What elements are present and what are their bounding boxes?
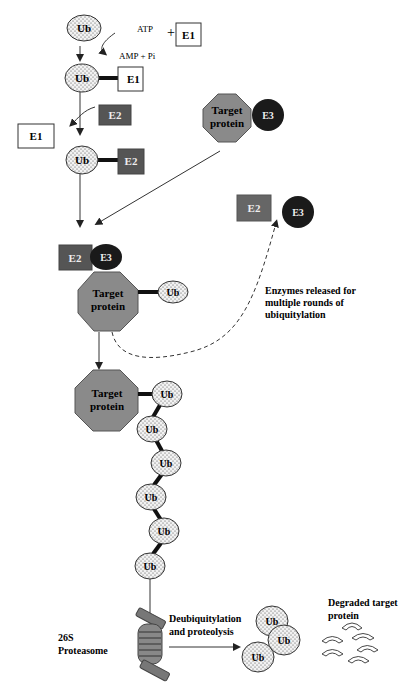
enzymes-released-label-1: Enzymes released for: [265, 285, 356, 296]
svg-text:Ub: Ub: [144, 561, 157, 572]
svg-text:Ub: Ub: [160, 458, 173, 469]
svg-text:E2: E2: [125, 155, 138, 167]
svg-text:E2: E2: [69, 252, 82, 264]
svg-text:Ub: Ub: [266, 616, 279, 627]
ub-free: Ub: [67, 15, 101, 41]
svg-text:Ub: Ub: [145, 492, 158, 503]
svg-text:protein: protein: [210, 117, 244, 129]
e1-released: E1: [18, 124, 54, 148]
e1-free: E1: [176, 23, 201, 46]
ub-e2-e2: E2: [118, 149, 144, 174]
target-e3-complex: Target protein E3: [203, 94, 284, 142]
e1-release-arrow: [72, 107, 95, 124]
svg-text:Target: Target: [212, 104, 243, 116]
enzymes-released-label-3: ubiquitylation: [265, 309, 326, 320]
proteasome-icon: [135, 607, 170, 681]
ub-e1-ub: Ub: [65, 64, 99, 92]
svg-text:E3: E3: [292, 207, 304, 218]
svg-text:protein: protein: [91, 300, 125, 312]
degraded-label-2: protein: [328, 610, 359, 621]
svg-text:Ub: Ub: [158, 526, 171, 537]
svg-text:E1: E1: [182, 29, 195, 41]
svg-text:Ub: Ub: [77, 22, 91, 34]
svg-text:E2: E2: [248, 202, 261, 214]
ubiquitin-pathway-diagram: Ub ATP + E1 AMP + Pi Ub E1 E2 E1 Ub E2: [0, 0, 415, 688]
proteasome-label-2: Proteasome: [58, 645, 108, 656]
svg-text:Ub: Ub: [146, 424, 159, 435]
e2-e3-target-complex: E2 E3 Target protein Ub: [59, 244, 188, 331]
polyubiquitinated-target: Target protein Ub Ub Ub Ub Ub Ub: [75, 370, 182, 579]
e2-released: E2: [237, 195, 271, 221]
enzymes-released-label-2: multiple rounds of: [265, 297, 344, 308]
e3-released: E3: [282, 196, 314, 228]
ub-e1-e1: E1: [118, 67, 143, 91]
atp-to-amp-arrow: [102, 33, 115, 53]
ub-e2-ub: Ub: [66, 146, 98, 174]
svg-text:Ub: Ub: [75, 72, 89, 84]
svg-text:Ub: Ub: [278, 635, 291, 646]
svg-text:E2: E2: [109, 109, 122, 121]
plus-sign: +: [167, 25, 175, 40]
amp-pi-label: AMP + Pi: [119, 51, 156, 61]
svg-text:E3: E3: [262, 110, 274, 121]
degraded-label-1: Degraded target: [328, 597, 398, 608]
svg-text:Ub: Ub: [161, 389, 174, 400]
svg-text:E1: E1: [30, 130, 43, 142]
svg-text:E1: E1: [127, 73, 140, 85]
svg-text:Target: Target: [93, 287, 124, 299]
free-ub-cluster: Ub Ub Ub: [242, 606, 300, 672]
svg-text:E3: E3: [100, 252, 112, 263]
svg-text:Ub: Ub: [75, 154, 89, 166]
deubiquitylation-label-1: Deubiquitylation: [169, 613, 242, 624]
proteasome-label-1: 26S: [58, 632, 74, 643]
svg-text:protein: protein: [90, 400, 124, 412]
atp-label: ATP: [137, 24, 153, 34]
svg-text:Target: Target: [92, 387, 123, 399]
degraded-fragments: [322, 623, 378, 663]
e2-incoming: E2: [99, 105, 131, 125]
svg-text:Ub: Ub: [167, 287, 180, 298]
svg-text:Ub: Ub: [252, 652, 265, 663]
deubiquitylation-label-2: and proteolysis: [169, 626, 234, 637]
